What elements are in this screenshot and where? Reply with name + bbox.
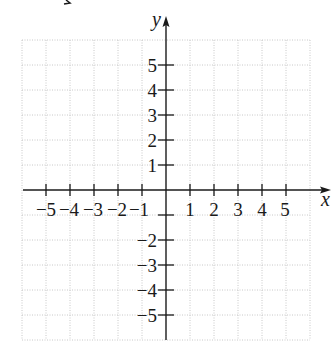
y-tick-label: 5 [148, 55, 158, 76]
x-tick-label: −2 [107, 199, 127, 220]
y-tick-label: −4 [137, 280, 158, 301]
x-tick-label: 2 [209, 199, 219, 220]
x-tick-label: −5 [36, 199, 56, 220]
y-tick-label: 3 [148, 105, 158, 126]
y-tick-label: −5 [137, 305, 157, 326]
y-axis-label: y [150, 8, 161, 31]
x-tick-label: 4 [257, 199, 267, 220]
x-tick-label: 1 [185, 199, 195, 220]
x-tick-label: 5 [280, 199, 290, 220]
x-tick-label: 3 [233, 199, 243, 220]
x-tick-label: −3 [83, 199, 103, 220]
y-tick-label: −3 [137, 255, 157, 276]
y-tick-label: 2 [148, 130, 158, 151]
x-tick-label: −4 [59, 199, 80, 220]
x-axis-label: x [320, 188, 330, 210]
y-tick-label: 4 [148, 80, 158, 101]
y-tick-label: 1 [148, 155, 158, 176]
cut-off-text-fragment [64, 0, 70, 4]
y-tick-label: −2 [137, 230, 157, 251]
x-tick-label: −1 [129, 199, 149, 220]
coordinate-plane: x −5 −4 −3 −2 −1 1 2 3 4 5 y [0, 0, 332, 350]
